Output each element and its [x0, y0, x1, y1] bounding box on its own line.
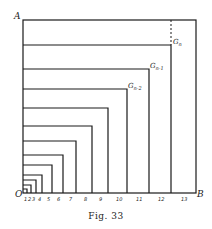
tick-8: 8 [84, 196, 87, 202]
tick-9: 9 [99, 196, 102, 202]
label-gn-1-sub: n-1 [156, 65, 164, 71]
tick-5: 5 [47, 196, 50, 202]
label-gn-2-sub: n-2 [134, 85, 142, 91]
label-gn-2: Gn-2 [128, 83, 142, 91]
figure-caption: Fig. 33 [0, 211, 212, 221]
label-gn: Gn [173, 39, 182, 47]
square-3 [23, 180, 36, 193]
tick-13: 13 [181, 196, 187, 202]
tick-4: 4 [38, 196, 41, 202]
tick-1: 1 [24, 196, 27, 202]
square-8 [23, 126, 92, 193]
tick-6: 6 [57, 196, 60, 202]
label-o: O [15, 190, 22, 199]
label-a: A [14, 12, 21, 21]
square-6 [23, 155, 63, 193]
tick-12: 12 [158, 196, 164, 202]
label-b: B [197, 190, 204, 199]
nested-squares [23, 20, 196, 193]
tick-11: 11 [136, 196, 142, 202]
square-4 [23, 175, 42, 193]
tick-3: 3 [32, 196, 35, 202]
tick-2: 2 [28, 196, 31, 202]
label-gn-1: Gn-1 [150, 63, 164, 71]
figure-diagram [0, 0, 212, 229]
outer-square [23, 20, 196, 193]
tick-7: 7 [69, 196, 72, 202]
tick-10: 10 [116, 196, 122, 202]
label-gn-sub: n [179, 41, 182, 47]
